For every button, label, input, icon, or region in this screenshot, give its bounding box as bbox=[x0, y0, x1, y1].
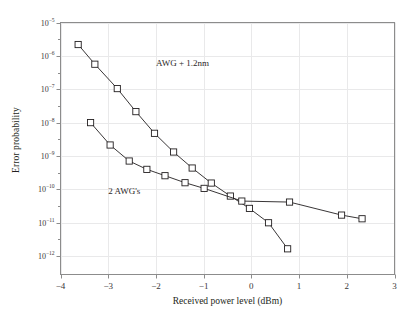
y-tick-label: 10−10 bbox=[25, 183, 55, 194]
data-point-marker bbox=[151, 130, 157, 136]
data-point-marker bbox=[114, 85, 120, 91]
x-tick-label: 3 bbox=[385, 281, 405, 291]
data-series-layer bbox=[75, 41, 365, 251]
data-point-marker bbox=[359, 216, 365, 222]
axis-ticks bbox=[57, 24, 396, 279]
data-point-marker bbox=[201, 185, 207, 191]
data-point-marker bbox=[265, 220, 271, 226]
x-tick-label: −4 bbox=[51, 281, 71, 291]
data-point-marker bbox=[162, 173, 168, 179]
x-tick-label: −3 bbox=[98, 281, 118, 291]
data-point-marker bbox=[92, 61, 98, 67]
data-point-marker bbox=[338, 212, 344, 218]
data-point-marker bbox=[170, 149, 176, 155]
series-line bbox=[91, 123, 362, 219]
x-tick-label: 1 bbox=[289, 281, 309, 291]
data-point-marker bbox=[144, 166, 150, 172]
y-tick-label: 10−11 bbox=[25, 217, 55, 228]
series-annotation: 2 AWG's bbox=[108, 186, 140, 196]
data-point-marker bbox=[239, 198, 245, 204]
chart-plot-area bbox=[0, 0, 419, 322]
data-point-marker bbox=[133, 109, 139, 115]
data-point-marker bbox=[182, 180, 188, 186]
data-point-marker bbox=[87, 120, 93, 126]
x-axis-label: Received power level (dBm) bbox=[60, 296, 395, 306]
x-tick-label: −2 bbox=[146, 281, 166, 291]
y-tick-label: 10−7 bbox=[25, 83, 55, 94]
y-tick-label: 10−12 bbox=[25, 250, 55, 261]
data-point-marker bbox=[126, 158, 132, 164]
data-point-marker bbox=[75, 41, 81, 47]
data-point-marker bbox=[285, 246, 291, 252]
x-tick-label: 2 bbox=[337, 281, 357, 291]
y-axis-label: Error probability bbox=[11, 80, 21, 200]
series-2 bbox=[87, 120, 365, 222]
data-point-marker bbox=[208, 180, 214, 186]
data-point-marker bbox=[189, 165, 195, 171]
y-tick-label: 10−9 bbox=[25, 150, 55, 161]
y-tick-label: 10−5 bbox=[25, 17, 55, 28]
figure-container: Error probability Received power level (… bbox=[0, 0, 419, 322]
data-point-marker bbox=[107, 142, 113, 148]
x-tick-label: 0 bbox=[241, 281, 261, 291]
data-point-marker bbox=[286, 199, 292, 205]
x-tick-label: −1 bbox=[194, 281, 214, 291]
series-annotation: AWG + 1.2nm bbox=[156, 58, 209, 68]
y-tick-label: 10−6 bbox=[25, 50, 55, 61]
data-point-marker bbox=[246, 205, 252, 211]
y-tick-label: 10−8 bbox=[25, 117, 55, 128]
